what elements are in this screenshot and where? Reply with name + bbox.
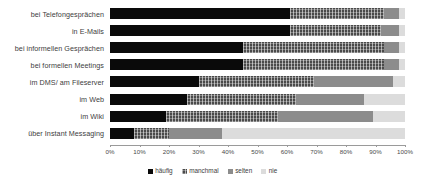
- plot-area: [110, 8, 405, 145]
- bar-segment-manchmal: [243, 59, 385, 70]
- legend-item[interactable]: nie: [261, 167, 277, 175]
- category-label: bei formellen Meetings: [0, 61, 104, 70]
- legend-item[interactable]: manchmal: [182, 167, 219, 175]
- bar-segment-nie: [399, 59, 405, 70]
- bar-segment-nie: [393, 76, 405, 87]
- bar-segment-häufig: [110, 128, 134, 139]
- bar-segment-nie: [222, 128, 405, 139]
- bar-segment-selten: [381, 25, 399, 36]
- bar-segment-manchmal: [187, 94, 296, 105]
- bar-segment-selten: [296, 94, 364, 105]
- bar-segment-häufig: [110, 42, 243, 53]
- category-axis: bei Telefongesprächenin E-Mailsbei infor…: [0, 8, 104, 145]
- category-label: über Instant Messaging: [0, 129, 104, 138]
- bar-segment-selten: [384, 42, 399, 53]
- bar-segment-häufig: [110, 8, 290, 19]
- category-label: im Wiki: [0, 112, 104, 121]
- bar-row: [110, 59, 405, 70]
- bar-row: [110, 42, 405, 53]
- bar-segment-nie: [399, 25, 405, 36]
- legend-label: selten: [235, 167, 252, 175]
- bar-segment-manchmal: [199, 76, 314, 87]
- x-axis: 0%10%20%30%40%50%60%70%80%90%100%: [0, 147, 425, 159]
- legend-label: manchmal: [189, 167, 218, 175]
- bar-segment-häufig: [110, 25, 290, 36]
- x-axis-tick-mark: [258, 145, 259, 147]
- x-axis-tick-mark: [199, 145, 200, 147]
- x-axis-tick-label: 100%: [385, 147, 425, 156]
- category-label: bei Telefongesprächen: [0, 10, 104, 19]
- bar-segment-selten: [278, 111, 372, 122]
- bar-segment-selten: [384, 8, 399, 19]
- bar-segment-selten: [384, 59, 399, 70]
- legend-swatch-icon: [148, 169, 153, 174]
- bar-segment-häufig: [110, 76, 199, 87]
- bar-segment-manchmal: [166, 111, 278, 122]
- x-axis-tick-mark: [110, 145, 111, 147]
- legend-label: nie: [269, 167, 278, 175]
- bar-row: [110, 25, 405, 36]
- legend-label: häufig: [155, 167, 172, 175]
- bar-segment-manchmal: [134, 128, 169, 139]
- legend-swatch-icon: [182, 169, 187, 174]
- bar-segment-nie: [399, 42, 405, 53]
- x-axis-tick-mark: [169, 145, 170, 147]
- stacked-bar-chart: bei Telefongesprächenin E-Mailsbei infor…: [0, 0, 425, 188]
- bar-segment-häufig: [110, 111, 166, 122]
- category-label: in E-Mails: [0, 27, 104, 36]
- bar-row: [110, 8, 405, 19]
- bar-segment-manchmal: [290, 8, 384, 19]
- x-axis-tick-mark: [287, 145, 288, 147]
- chart-legend: häufigmanchmalseltennie: [0, 167, 425, 175]
- bar-segment-häufig: [110, 94, 187, 105]
- legend-swatch-icon: [261, 169, 266, 174]
- x-axis-tick-mark: [140, 145, 141, 147]
- legend-item[interactable]: häufig: [148, 167, 173, 175]
- bar-segment-selten: [169, 128, 222, 139]
- x-axis-tick-mark: [346, 145, 347, 147]
- x-axis-tick-mark: [405, 145, 406, 147]
- bar-row: [110, 128, 405, 139]
- x-axis-tick-mark: [228, 145, 229, 147]
- legend-item[interactable]: selten: [228, 167, 253, 175]
- bar-row: [110, 94, 405, 105]
- bar-row: [110, 111, 405, 122]
- bar-segment-nie: [399, 8, 405, 19]
- bar-segment-selten: [314, 76, 394, 87]
- x-axis-tick-mark: [317, 145, 318, 147]
- bar-segment-manchmal: [290, 25, 381, 36]
- bar-row: [110, 76, 405, 87]
- category-label: bei informellen Gesprächen: [0, 44, 104, 53]
- category-label: im DMS/ am Fileserver: [0, 78, 104, 87]
- bar-segment-nie: [364, 94, 405, 105]
- legend-swatch-icon: [228, 169, 233, 174]
- bar-segment-nie: [373, 111, 405, 122]
- bar-segment-häufig: [110, 59, 243, 70]
- category-label: im Web: [0, 95, 104, 104]
- x-axis-tick-mark: [376, 145, 377, 147]
- bar-segment-manchmal: [243, 42, 385, 53]
